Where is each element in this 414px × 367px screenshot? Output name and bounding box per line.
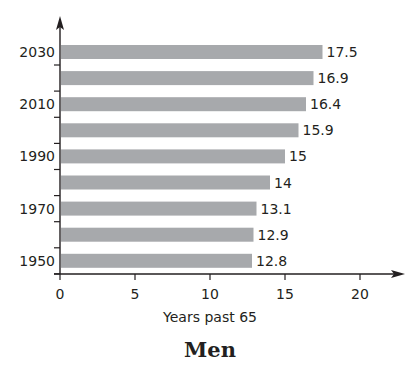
bar-1970 xyxy=(61,202,257,216)
chart-title: Men xyxy=(184,337,236,362)
value-label-1960: 12.9 xyxy=(258,227,289,243)
value-label-1980: 14 xyxy=(274,175,292,191)
y-tick-label-2010: 2010 xyxy=(19,96,55,112)
value-label-1970: 13.1 xyxy=(261,201,292,217)
value-label-2000: 15.9 xyxy=(303,122,334,138)
y-axis: 19501970199020102030 xyxy=(19,16,64,274)
bar-1960 xyxy=(61,228,254,242)
y-tick-label-1950: 1950 xyxy=(19,253,55,269)
x-tick-label-5: 5 xyxy=(131,286,140,302)
y-tick-label-1990: 1990 xyxy=(19,148,55,164)
bar-1980 xyxy=(61,176,270,190)
value-label-2010: 16.4 xyxy=(310,96,341,112)
value-label-1990: 15 xyxy=(289,148,307,164)
x-ticks-group xyxy=(60,274,360,280)
bar-1990 xyxy=(61,149,285,163)
bar-chart: 12.812.913.1141515.916.416.917.5 1950197… xyxy=(0,0,414,367)
bar-2010 xyxy=(61,97,306,111)
bar-2030 xyxy=(61,45,323,59)
bar-1950 xyxy=(61,254,252,268)
bar-2020 xyxy=(61,71,314,85)
value-label-1950: 12.8 xyxy=(256,253,287,269)
x-tick-label-15: 15 xyxy=(276,286,294,302)
y-tick-label-1970: 1970 xyxy=(19,201,55,217)
value-label-2030: 17.5 xyxy=(327,44,358,60)
y-tick-label-2030: 2030 xyxy=(19,44,55,60)
x-tick-label-10: 10 xyxy=(201,286,219,302)
x-tick-label-0: 0 xyxy=(56,286,65,302)
bar-2000 xyxy=(61,123,299,137)
x-tick-labels-group: 05101520 xyxy=(56,286,369,302)
x-axis: 05101520 xyxy=(54,270,405,302)
x-axis-label: Years past 65 xyxy=(162,309,257,325)
x-tick-label-20: 20 xyxy=(351,286,369,302)
y-tick-labels-group: 19501970199020102030 xyxy=(19,44,55,269)
value-label-2020: 16.9 xyxy=(318,70,349,86)
